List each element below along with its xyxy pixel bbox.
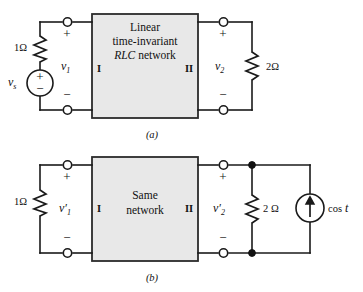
caption-b: (b): [146, 272, 159, 284]
network-box-a-line1: Linear: [130, 21, 160, 33]
resistor-b-1ohm-label: 1Ω: [14, 196, 27, 207]
voltage-source-a-label: vs: [8, 75, 16, 91]
resistor-b-1ohm: [34, 190, 46, 216]
network-box-b-line1: Same: [132, 189, 158, 201]
resistor-a-2ohm: [246, 52, 258, 80]
port-label-a-right: II: [185, 63, 193, 74]
port-label-b-right: II: [185, 203, 193, 214]
panel-b: Same network I II 1Ω + − v′1: [14, 157, 349, 284]
v1-label: v1: [61, 59, 70, 75]
v2prime-minus-sign: −: [219, 230, 226, 245]
port-label-a-left: I: [97, 63, 101, 74]
terminal-b-left-top: [63, 161, 71, 169]
terminal-a-left-top: [63, 18, 71, 26]
voltage-source-a-minus: −: [36, 81, 43, 96]
resistor-b-2ohm: [246, 195, 258, 223]
v2-minus-sign: −: [219, 87, 226, 102]
terminal-b-right-bottom: [219, 249, 227, 257]
terminal-a-right-bottom: [219, 106, 227, 114]
node-dot-b-top: [249, 162, 256, 169]
current-source-b-label: cost: [328, 201, 349, 215]
panel-a: Linear time-invariant RLC network I II 1…: [8, 14, 279, 141]
resistor-a-1ohm-label: 1Ω: [14, 42, 27, 53]
resistor-a-2ohm-label: 2Ω: [266, 61, 279, 72]
resistor-b-2ohm-label: 2 Ω: [263, 203, 279, 214]
rlc-italic: RLC: [113, 49, 135, 61]
node-dot-b-bottom: [249, 250, 256, 257]
v1-minus-sign: −: [63, 87, 70, 102]
network-word: network: [135, 49, 176, 61]
network-box-a-line3: RLC network: [113, 49, 176, 61]
terminal-b-left-bottom: [63, 249, 71, 257]
v2prime-label: v′2: [213, 201, 225, 217]
v2prime-plus-sign: +: [219, 169, 226, 184]
terminal-a-left-bottom: [63, 106, 71, 114]
network-box-b-line2: network: [126, 204, 164, 216]
circuit-figure-page: Linear time-invariant RLC network I II 1…: [0, 0, 363, 292]
two-port-network-figure: Linear time-invariant RLC network I II 1…: [0, 0, 363, 292]
terminal-a-right-top: [219, 18, 227, 26]
caption-a: (a): [146, 129, 159, 141]
resistor-a-1ohm: [34, 36, 46, 62]
v1prime-plus-sign: +: [63, 169, 70, 184]
v2-label: v2: [215, 59, 224, 75]
v1prime-minus-sign: −: [63, 230, 70, 245]
v1-plus-sign: +: [63, 26, 70, 41]
terminal-b-right-top: [219, 161, 227, 169]
network-box-a-line2: time-invariant: [112, 35, 178, 47]
v2-plus-sign: +: [219, 26, 226, 41]
v1prime-label: v′1: [59, 201, 71, 217]
port-label-b-left: I: [97, 203, 101, 214]
